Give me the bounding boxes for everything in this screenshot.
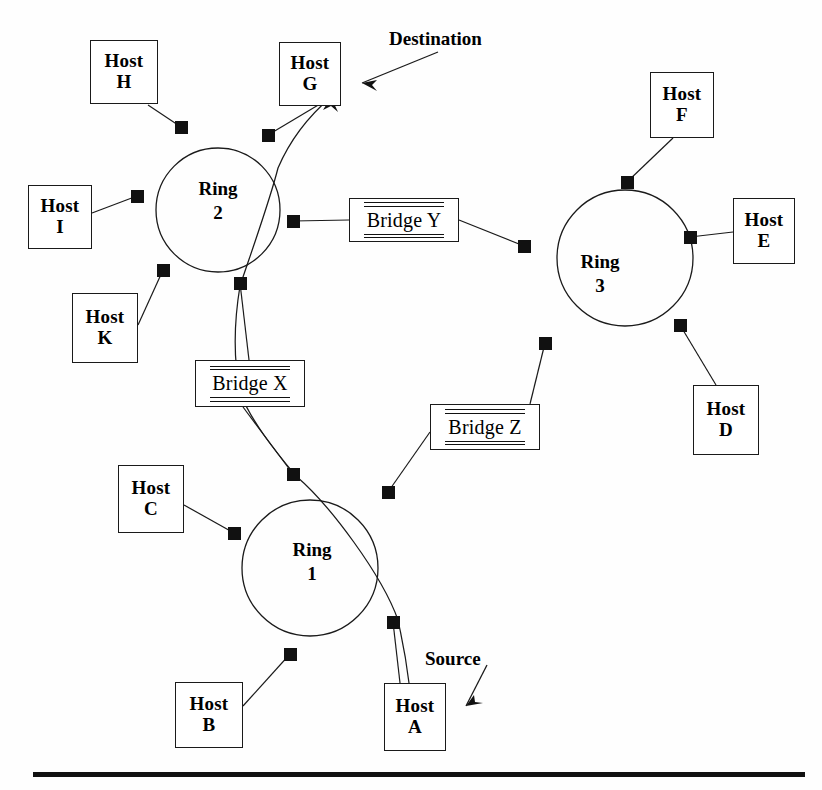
host-k-box[interactable]: HostK <box>72 293 138 363</box>
host-d-label-line1: Host <box>707 399 746 420</box>
ring-node-n-r3-se <box>674 319 687 332</box>
host-i-box[interactable]: HostI <box>28 185 92 249</box>
link-d <box>680 325 716 385</box>
ring-label-line2: 2 <box>178 201 258 225</box>
bottom-rule <box>33 772 805 777</box>
ring-node-n-r2-nw <box>175 121 188 134</box>
host-e-box[interactable]: HostE <box>733 198 795 264</box>
ring-label-ring3: Ring3 <box>560 250 640 298</box>
ring-node-n-r3-w <box>518 240 531 253</box>
host-i-label-line2: I <box>56 217 64 238</box>
bridge-y-label: Bridge Y <box>367 210 442 231</box>
link-by-r2 <box>293 220 349 221</box>
host-a-label-line1: Host <box>396 696 435 717</box>
host-c-label-line2: C <box>144 499 158 520</box>
host-f-label-line2: F <box>676 105 688 126</box>
ring-node-n-r2-ne <box>262 129 275 142</box>
destination-arrow <box>362 52 438 83</box>
link-bz-r1 <box>388 432 430 492</box>
ring-node-n-r2-sw <box>157 264 170 277</box>
ring-node-n-r1-e <box>387 616 400 629</box>
bridge-z-label: Bridge Z <box>448 417 521 438</box>
ring-label-line1: Ring <box>198 178 237 199</box>
link-bx-r2 <box>240 283 249 360</box>
host-d-label-line2: D <box>719 420 733 441</box>
bridge-y-rules-top <box>364 202 445 207</box>
link-a <box>393 622 400 683</box>
host-e-label-line1: Host <box>745 210 784 231</box>
bridge-z-box[interactable]: Bridge Z <box>430 404 540 450</box>
link-f <box>627 138 673 182</box>
ring-label-line2: 1 <box>272 562 352 586</box>
annotation-arrows <box>362 52 487 706</box>
host-g-label-line2: G <box>303 74 318 95</box>
host-k-label-line1: Host <box>86 307 125 328</box>
host-h-label-line1: Host <box>105 51 144 72</box>
host-i-label-line1: Host <box>41 196 80 217</box>
bridge-x-box[interactable]: Bridge X <box>195 360 305 407</box>
host-a-box[interactable]: HostA <box>384 683 446 751</box>
host-k-label-line2: K <box>98 328 113 349</box>
host-f-label-line1: Host <box>663 84 702 105</box>
bridge-x-rules-bottom <box>210 397 291 402</box>
host-g-label-line1: Host <box>291 53 330 74</box>
link-k <box>138 270 163 325</box>
host-a-label-line2: A <box>408 717 422 738</box>
source-arrow <box>466 665 487 706</box>
ring-node-n-r2-w <box>131 190 144 203</box>
link-bz-r3 <box>530 343 545 404</box>
ring-label-line1: Ring <box>292 539 331 560</box>
ring-node-n-r3-sw <box>539 337 552 350</box>
bridge-x-label: Bridge X <box>212 373 287 394</box>
host-b-label-line1: Host <box>190 694 229 715</box>
link-c <box>184 505 234 533</box>
destination-label: Destination <box>389 28 482 50</box>
bridge-x-rules-top <box>210 366 291 371</box>
host-f-box[interactable]: HostF <box>650 72 714 138</box>
host-b-box[interactable]: HostB <box>175 682 243 748</box>
diagram-canvas: Ring2Ring3Ring1 HostHHostGHostIHostKHost… <box>0 0 822 790</box>
ring-node-n-r2-s <box>234 277 247 290</box>
link-b <box>243 654 290 706</box>
ring-node-n-r1-s <box>284 648 297 661</box>
ring-node-n-r3-n <box>621 176 634 189</box>
ring-node-n-r1-w <box>228 527 241 540</box>
bridge-y-rules-bottom <box>364 234 445 239</box>
ring-label-ring2: Ring2 <box>178 177 258 225</box>
source-label: Source <box>425 648 481 670</box>
bridge-y-box[interactable]: Bridge Y <box>349 198 459 242</box>
host-d-box[interactable]: HostD <box>693 385 759 455</box>
host-h-label-line2: H <box>117 72 132 93</box>
ring-label-line1: Ring <box>580 251 619 272</box>
ring-node-n-r1-n <box>287 468 300 481</box>
ring-node-n-r1-ne <box>382 486 395 499</box>
host-c-label-line1: Host <box>132 478 171 499</box>
ring-label-ring1: Ring1 <box>272 538 352 586</box>
host-c-box[interactable]: HostC <box>118 465 184 533</box>
bridge-z-rules-top <box>445 409 526 414</box>
ring-label-line2: 3 <box>560 274 640 298</box>
ring-node-n-r3-e <box>684 231 697 244</box>
host-e-label-line2: E <box>758 231 771 252</box>
host-h-box[interactable]: HostH <box>90 40 158 104</box>
link-by-r3 <box>459 220 524 246</box>
host-g-box[interactable]: HostG <box>279 42 341 106</box>
host-b-label-line2: B <box>203 715 216 736</box>
bridge-z-rules-bottom <box>445 441 526 446</box>
ring-node-n-r2-e <box>287 215 300 228</box>
